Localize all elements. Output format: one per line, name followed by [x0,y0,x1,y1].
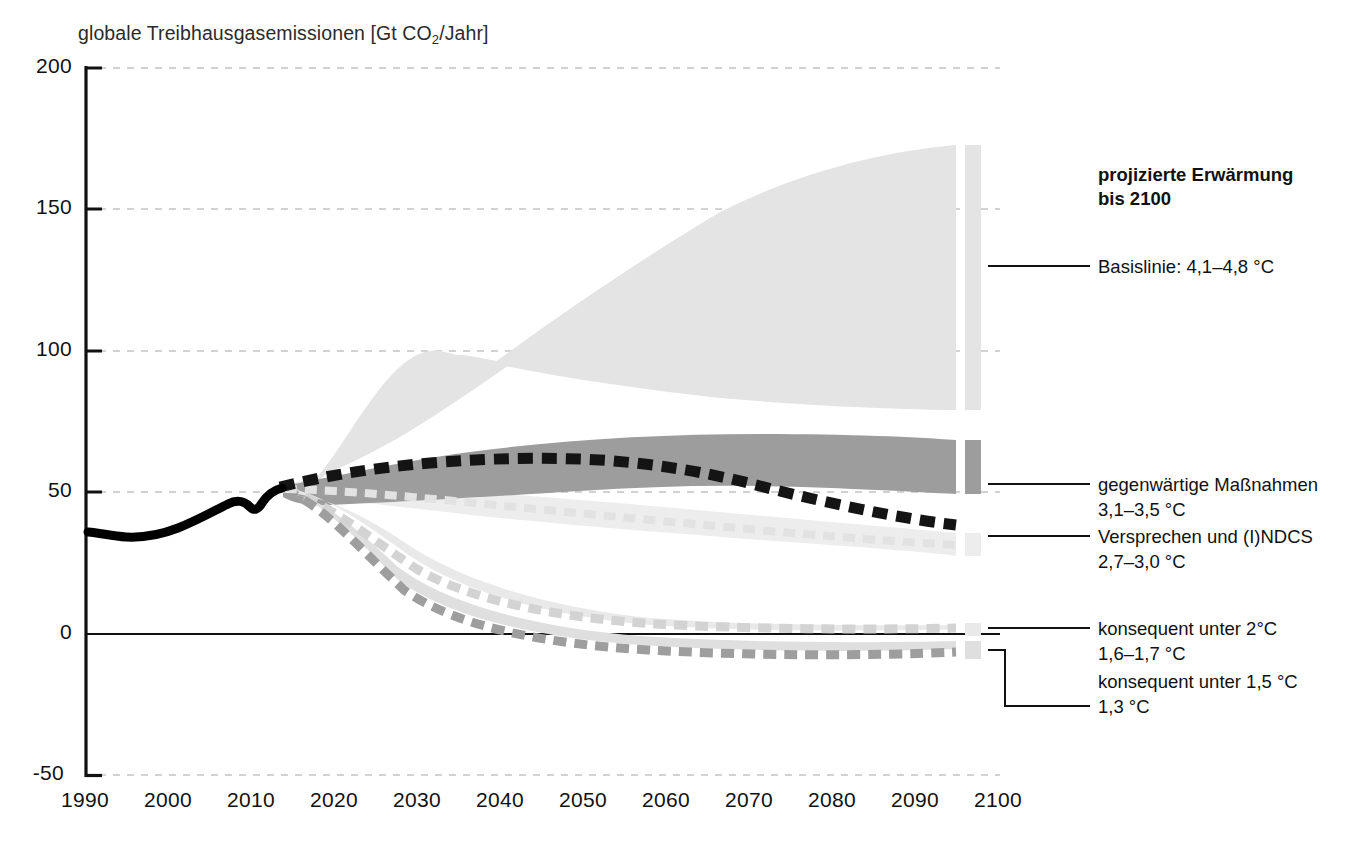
x-tick-label-2060: 2060 [631,788,701,812]
x-tick-label-2020: 2020 [299,788,369,812]
x-tick-label-2070: 2070 [714,788,784,812]
x-tick-label-2090: 2090 [880,788,950,812]
marker-gegenwaertige-massnahmen [965,440,981,494]
marker-basislinie [965,145,981,410]
y-tick-label-150: 150 [8,195,72,219]
y-tick-label-100: 100 [8,337,72,361]
marker-unter-2grad [965,623,981,636]
x-tick-label-1990: 1990 [50,788,120,812]
legend-entry-basislinie: Basislinie: 4,1–4,8 °C [1098,255,1274,280]
leader-line-unter15 [988,650,1090,706]
y-tick-label-50: 50 [8,478,72,502]
legend-entry-unter-15-grad: konsequent unter 1,5 °C 1,3 °C [1098,670,1298,720]
y-tick-label-minus50: -50 [0,761,64,785]
y-tick-label-200: 200 [8,54,72,78]
x-tick-label-2100: 2100 [963,788,1033,812]
legend-entry-versprechen-indcs: Versprechen und (I)NDCS 2,7–3,0 °C [1098,525,1313,575]
legend-entry-gegenwaertige-massnahmen: gegenwärtige Maßnahmen 3,1–3,5 °C [1098,473,1318,523]
x-tick-label-2040: 2040 [465,788,535,812]
legend-leader-lines [988,266,1090,706]
legend-title: projizierte Erwärmung bis 2100 [1098,163,1293,212]
emissions-projection-chart: globale Treibhausgasemissionen [Gt CO2/J… [0,0,1357,843]
y-tick-label-0: 0 [8,620,72,644]
legend-entry-unter-2-grad: konsequent unter 2°C 1,6–1,7 °C [1098,617,1277,667]
x-tick-label-2080: 2080 [797,788,867,812]
marker-versprechen [965,533,981,556]
x-tick-label-2050: 2050 [548,788,618,812]
line-historisch [88,488,282,537]
marker-unter-15grad [965,641,981,659]
x-tick-label-2000: 2000 [133,788,203,812]
x-tick-label-2030: 2030 [382,788,452,812]
x-tick-label-2010: 2010 [216,788,286,812]
